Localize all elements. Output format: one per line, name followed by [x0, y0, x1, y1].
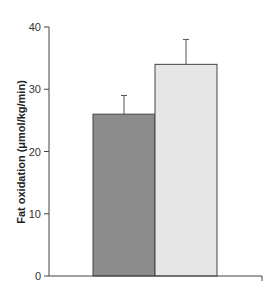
bar-1	[93, 114, 155, 276]
y-axis-title: Fat oxidation (μmol/kg/min)	[15, 80, 27, 224]
bars	[93, 39, 217, 276]
y-tick-label: 10	[29, 208, 41, 220]
y-tick-label: 0	[35, 270, 41, 282]
bar-chart: 010203040 Fat oxidation (μmol/kg/min)	[0, 0, 279, 293]
y-tick-label: 30	[29, 83, 41, 95]
y-axis: 010203040	[29, 21, 49, 282]
y-tick-label: 20	[29, 146, 41, 158]
bar-2	[155, 64, 217, 276]
y-tick-label: 40	[29, 21, 41, 33]
